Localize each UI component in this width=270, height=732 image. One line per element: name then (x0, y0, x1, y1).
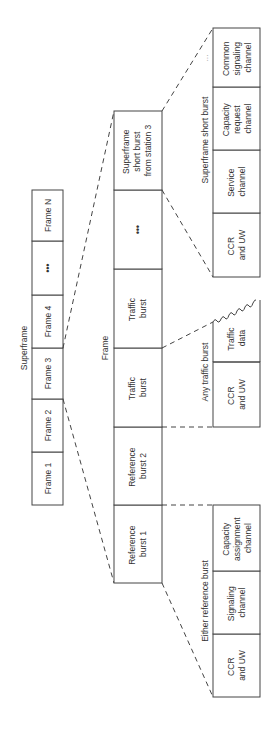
frame-label: Frame (100, 335, 110, 360)
short-burst-detail-label: Superframe short burst (200, 96, 210, 184)
zoom-line-frame-top (63, 111, 114, 348)
frame-n-label: Frame N (43, 199, 53, 232)
traffic-burst-detail: Any traffic burst CCR and UW Traffic dat… (200, 300, 260, 427)
short-burst-detail: Superframe short burst ... CCR and UW Se… (200, 28, 260, 277)
superframe-short-burst-label: Superframe short burst from station 3 (121, 124, 153, 176)
frame-2-label: Frame 2 (43, 409, 53, 441)
short-capacity-request-label: Capacity request channel (221, 101, 253, 136)
traffic-burst-b-label: Traffic burst (127, 296, 148, 322)
superframe-label: Superframe (19, 326, 29, 371)
frame-1-label: Frame 1 (43, 462, 53, 494)
short-burst-ellipsis: ... (200, 54, 210, 61)
reference-burst-detail-label: Either reference burst (200, 559, 210, 641)
frame-4-label: Frame 4 (43, 305, 53, 337)
short-service-channel-label: Service channel (226, 166, 247, 197)
frame-row: Frame Reference burst 1 Reference burst … (100, 111, 162, 583)
superframe-row: Superframe Frame 1 Frame 2 Frame 3 Frame… (19, 190, 63, 505)
traffic-burst-a-label: Traffic burst (127, 375, 148, 401)
ref-signaling-channel-label: Signaling channel (226, 584, 247, 621)
zoom-line-frame-bottom (63, 399, 114, 583)
wavy-break-edge (213, 300, 256, 322)
reference-burst-detail: Either reference burst CCR and UW Signal… (200, 505, 260, 697)
burst-ellipsis-label: ••• (133, 225, 143, 234)
traffic-data-label: Traffic data (226, 325, 247, 351)
frame-3-label: Frame 3 (43, 357, 53, 389)
tdma-frame-structure-diagram: Superframe Frame 1 Frame 2 Frame 3 Frame… (0, 0, 270, 732)
zoom-line-short-bottom (162, 190, 213, 277)
frame-ellipsis-label: ••• (43, 264, 53, 273)
traffic-burst-detail-label: Any traffic burst (200, 342, 210, 402)
short-common-signaling-label: Common signaling channel (221, 39, 253, 76)
